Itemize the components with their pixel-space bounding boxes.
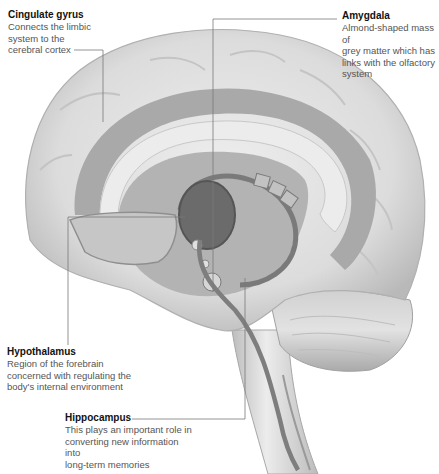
thalamus: [179, 181, 235, 249]
label-description: Region of the forebrain concerned with r…: [7, 358, 157, 393]
label-title: Amygdala: [342, 10, 438, 22]
label-hippocampus: Hippocampus This plays an important role…: [65, 412, 195, 470]
label-hypothalamus: Hypothalamus Region of the forebrain con…: [7, 346, 157, 393]
label-cingulate-gyrus: Cingulate gyrus Connects the limbic syst…: [8, 9, 118, 56]
label-description: Almond-shaped mass of grey matter which …: [342, 22, 438, 80]
label-title: Cingulate gyrus: [8, 9, 118, 21]
label-description: This plays an important role in converti…: [65, 424, 195, 470]
label-description: Connects the limbic system to the cerebr…: [8, 21, 118, 56]
label-amygdala: Amygdala Almond-shaped mass of grey matt…: [342, 10, 438, 80]
label-title: Hypothalamus: [7, 346, 157, 358]
cerebellum: [270, 288, 413, 371]
brain-diagram: Cingulate gyrus Connects the limbic syst…: [0, 0, 439, 474]
label-title: Hippocampus: [65, 412, 195, 424]
